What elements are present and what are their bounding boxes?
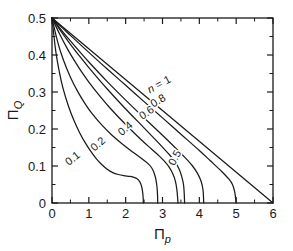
curves-layer [52, 18, 273, 203]
chart-canvas: 012345600.10.20.30.40.5 n = 1n = 10.80.8… [0, 0, 293, 251]
curve-label-group-4: 0.40.4 [115, 119, 134, 138]
x-axis-title-text: Πp [154, 225, 171, 245]
curve-label-4: 0.4 [115, 119, 134, 138]
curve-3 [52, 18, 185, 203]
y-tick-label: 0.3 [28, 85, 46, 100]
y-tick-label: 0.2 [28, 122, 46, 137]
y-tick-label: 0 [39, 196, 46, 211]
y-tick-label: 0.5 [28, 11, 46, 26]
y-axis-title: ΠQ [4, 100, 24, 120]
curve-label-group-6: 0.10.1 [63, 149, 82, 168]
x-tick-label: 2 [122, 206, 129, 221]
chart-figure: 012345600.10.20.30.40.5 n = 1n = 10.80.8… [0, 0, 293, 251]
curve-label-group-3: 0.50.5 [166, 148, 184, 167]
curve-0 [52, 18, 273, 203]
x-axis-title: Πp [154, 225, 171, 245]
y-tick-label: 0.1 [28, 159, 46, 174]
x-tick-label: 1 [85, 206, 92, 221]
y-axis-title-text: ΠQ [4, 100, 24, 120]
x-tick-label: 4 [196, 206, 203, 221]
x-tick-label: 6 [269, 206, 276, 221]
curve-label-6: 0.1 [63, 149, 82, 168]
y-tick-label: 0.4 [28, 48, 46, 63]
x-tick-label: 5 [233, 206, 240, 221]
axes-layer: 012345600.10.20.30.40.5 [28, 11, 277, 222]
curve-label-3: 0.5 [166, 148, 184, 167]
x-tick-label: 3 [159, 206, 166, 221]
x-tick-label: 0 [48, 206, 55, 221]
